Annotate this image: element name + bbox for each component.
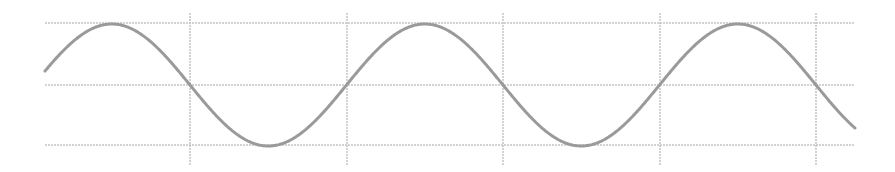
sine-wave-chart (0, 0, 895, 172)
grid-lines (45, 13, 855, 165)
